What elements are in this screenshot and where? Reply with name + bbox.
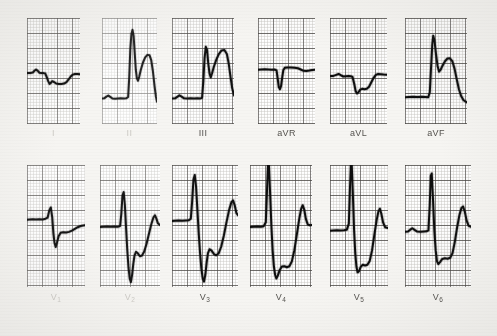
lead-label-subscript: 3 bbox=[206, 296, 210, 303]
lead-label-I: I bbox=[27, 128, 80, 138]
lead-label-subscript: 6 bbox=[439, 296, 443, 303]
lead-label-text: III bbox=[199, 128, 208, 138]
lead-panel-I[interactable] bbox=[27, 18, 80, 124]
lead-cell-aVL: aVL bbox=[330, 0, 387, 142]
lead-label-II: II bbox=[102, 128, 157, 138]
lead-label-V4: V4 bbox=[250, 292, 312, 302]
lead-label-V1: V1 bbox=[27, 292, 85, 302]
lead-panel-V6[interactable] bbox=[405, 165, 471, 287]
lead-label-aVF: aVF bbox=[405, 128, 467, 138]
lead-cell-V6: V6 bbox=[405, 155, 471, 306]
lead-label-text: aVL bbox=[350, 128, 367, 138]
lead-label-subscript: 1 bbox=[57, 296, 61, 303]
lead-label-text: aVF bbox=[427, 128, 445, 138]
lead-cell-V5: V5 bbox=[330, 155, 388, 306]
lead-cell-V2: V2 bbox=[100, 155, 160, 306]
lead-label-aVL: aVL bbox=[330, 128, 387, 138]
lead-panel-V1[interactable] bbox=[27, 165, 85, 287]
lead-panel-III[interactable] bbox=[172, 18, 234, 124]
lead-label-III: III bbox=[172, 128, 234, 138]
lead-cell-aVF: aVF bbox=[405, 0, 467, 142]
lead-panel-V2[interactable] bbox=[100, 165, 160, 287]
ecg-trace-I bbox=[27, 18, 80, 124]
lead-label-subscript: 4 bbox=[282, 296, 286, 303]
lead-panel-V3[interactable] bbox=[172, 165, 238, 287]
ecg-row-limb-leads: IIIIIIaVRaVLaVF bbox=[0, 0, 497, 155]
lead-label-text: II bbox=[127, 128, 133, 138]
lead-cell-aVR: aVR bbox=[258, 0, 315, 142]
ecg-trace-aVR bbox=[258, 18, 315, 124]
lead-label-V5: V5 bbox=[330, 292, 388, 302]
lead-label-text: I bbox=[52, 128, 55, 138]
lead-label-V3: V3 bbox=[172, 292, 238, 302]
lead-panel-aVR[interactable] bbox=[258, 18, 315, 124]
lead-cell-V4: V4 bbox=[250, 155, 312, 306]
ecg-trace-aVL bbox=[330, 18, 387, 124]
lead-panel-aVF[interactable] bbox=[405, 18, 467, 124]
lead-label-subscript: 5 bbox=[360, 296, 364, 303]
lead-label-aVR: aVR bbox=[258, 128, 315, 138]
ecg-trace-aVF bbox=[405, 18, 467, 124]
ecg-trace-V3 bbox=[172, 165, 238, 287]
lead-label-V2: V2 bbox=[100, 292, 160, 302]
lead-panel-II[interactable] bbox=[102, 18, 157, 124]
lead-label-V6: V6 bbox=[405, 292, 471, 302]
lead-cell-V1: V1 bbox=[27, 155, 85, 306]
ecg-row-precordial-leads: V1V2V3V4V5V6 bbox=[0, 155, 497, 336]
ecg-trace-III bbox=[172, 18, 234, 124]
lead-cell-III: III bbox=[172, 0, 234, 142]
lead-cell-I: I bbox=[27, 0, 80, 142]
ecg-trace-V6 bbox=[405, 165, 471, 287]
ecg-trace-II bbox=[102, 18, 157, 124]
lead-cell-II: II bbox=[102, 0, 157, 142]
lead-panel-aVL[interactable] bbox=[330, 18, 387, 124]
ecg-sheet: IIIIIIaVRaVLaVF V1V2V3V4V5V6 bbox=[0, 0, 497, 336]
lead-cell-V3: V3 bbox=[172, 155, 238, 306]
ecg-trace-V2 bbox=[100, 165, 160, 287]
ecg-trace-V5 bbox=[330, 165, 388, 287]
lead-panel-V5[interactable] bbox=[330, 165, 388, 287]
ecg-trace-V1 bbox=[27, 165, 85, 287]
lead-label-text: aVR bbox=[277, 128, 296, 138]
ecg-trace-V4 bbox=[250, 165, 312, 287]
lead-panel-V4[interactable] bbox=[250, 165, 312, 287]
lead-label-subscript: 2 bbox=[131, 296, 135, 303]
